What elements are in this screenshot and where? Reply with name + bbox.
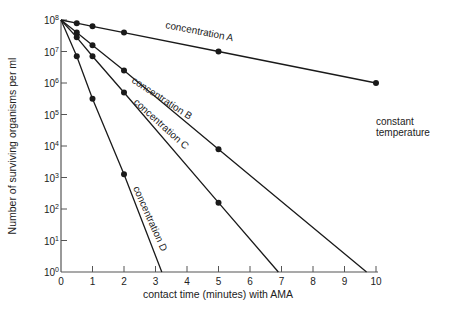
- x-tick-label: 2: [121, 276, 127, 287]
- y-tick-label: 103: [44, 172, 59, 184]
- annotation-temperature: temperature: [376, 127, 430, 138]
- x-axis-title: contact time (minutes) with AMA: [143, 288, 293, 300]
- x-tick-label: 10: [370, 276, 382, 287]
- series-line-b: [61, 20, 367, 272]
- data-point: [74, 34, 80, 40]
- x-tick-label: 4: [184, 276, 190, 287]
- y-tick-label: 107: [44, 46, 59, 58]
- data-point: [90, 53, 96, 59]
- data-point: [373, 80, 379, 86]
- y-axis-title: Number of surviving organisms per ml: [6, 58, 18, 235]
- x-tick-label: 3: [153, 276, 159, 287]
- x-tick-label: 7: [279, 276, 285, 287]
- chart-canvas: 012345678910100101102103104105106107108 …: [0, 0, 459, 322]
- y-tick-label: 102: [44, 203, 59, 215]
- curve-label-a: concentration A: [165, 19, 235, 43]
- x-tick-label: 9: [342, 276, 348, 287]
- data-point: [90, 42, 96, 48]
- data-point: [90, 23, 96, 29]
- y-tick-label: 108: [44, 14, 59, 26]
- x-tick-label: 0: [58, 276, 64, 287]
- data-point: [216, 200, 222, 206]
- data-point: [216, 146, 222, 152]
- annotation-constant: constant: [376, 116, 414, 127]
- y-tick-label: 105: [44, 109, 59, 121]
- x-tick-label: 5: [216, 276, 222, 287]
- y-tick-label: 106: [44, 77, 59, 89]
- data-point: [121, 30, 127, 36]
- data-point: [121, 171, 127, 177]
- y-tick-label: 104: [44, 140, 59, 152]
- x-tick-label: 8: [310, 276, 316, 287]
- data-series: [61, 20, 379, 272]
- y-tick-label: 100: [44, 266, 59, 278]
- data-point: [121, 67, 127, 73]
- x-tick-label: 1: [90, 276, 96, 287]
- data-point: [74, 53, 80, 59]
- data-point: [216, 49, 222, 55]
- data-point: [121, 89, 127, 95]
- y-tick-label: 101: [44, 235, 59, 247]
- survival-curve-chart: 012345678910100101102103104105106107108 …: [0, 0, 459, 322]
- data-point: [90, 96, 96, 102]
- x-tick-label: 6: [247, 276, 253, 287]
- data-point: [74, 20, 80, 26]
